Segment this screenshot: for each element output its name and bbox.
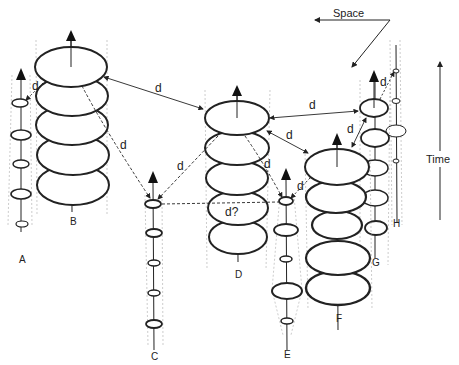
- distance-label-g-h: d: [380, 75, 387, 89]
- space-arrow-diagonal: [352, 20, 390, 67]
- distance-label-d-g: d: [309, 98, 316, 112]
- distance-label-b-a: d: [32, 79, 39, 93]
- time-axis: Time: [426, 62, 458, 220]
- distance-label-d-f: d: [286, 128, 293, 142]
- stack-label-d: D: [235, 269, 242, 280]
- space-axis: Space: [315, 7, 390, 67]
- distance-label-f-e: d: [297, 179, 304, 193]
- stack-label-b: B: [70, 216, 77, 227]
- arrow-up-icon: [281, 168, 291, 180]
- arrow-up-icon: [232, 85, 242, 96]
- stack-b: B: [35, 30, 109, 227]
- arrow-up-icon: [148, 171, 158, 183]
- stack-c: C: [145, 171, 163, 362]
- stack-d: D: [205, 85, 270, 280]
- arrow-up-icon: [66, 30, 76, 41]
- stack-label-c: C: [151, 351, 158, 362]
- distance-label-f-g: d: [347, 122, 354, 136]
- arrow-up-icon: [369, 70, 379, 82]
- stack-f: F: [305, 133, 372, 330]
- space-time-diagram: Space Time A B: [0, 0, 459, 365]
- distance-label-d-e: d: [264, 157, 271, 171]
- stack-label-g: G: [372, 257, 380, 268]
- distance-label-b-c: d: [120, 138, 127, 152]
- stack-label-a: A: [19, 254, 26, 265]
- distance-label-d-c: d: [177, 159, 184, 173]
- arrow-up-icon: [16, 68, 26, 80]
- space-label: Space: [333, 7, 364, 19]
- distance-label-b-d: d: [155, 81, 162, 95]
- stack-label-e: E: [284, 349, 291, 360]
- stack-e: E: [272, 168, 302, 360]
- distance-label-c-e-uncertain: d?: [225, 205, 239, 219]
- stack-label-f: F: [336, 313, 342, 324]
- time-label: Time: [426, 153, 450, 165]
- stack-label-h: H: [393, 218, 400, 229]
- arrow-up-icon: [332, 133, 342, 145]
